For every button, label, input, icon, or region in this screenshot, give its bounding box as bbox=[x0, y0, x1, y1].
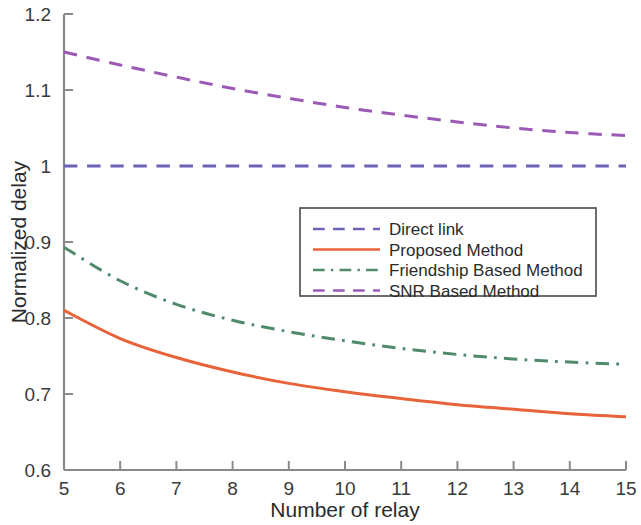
legend-label: Proposed Method bbox=[389, 241, 523, 260]
x-tick-label: 13 bbox=[503, 478, 524, 499]
x-tick-label: 5 bbox=[59, 478, 70, 499]
x-axis-title: Number of relay bbox=[270, 498, 420, 521]
x-tick-label: 14 bbox=[559, 478, 581, 499]
legend-label: SNR Based Method bbox=[389, 282, 539, 301]
x-tick-label: 10 bbox=[334, 478, 355, 499]
y-tick-label: 1.1 bbox=[25, 80, 51, 101]
y-tick-label: 1 bbox=[40, 156, 51, 177]
x-tick-label: 15 bbox=[615, 478, 636, 499]
legend-label: Friendship Based Method bbox=[389, 261, 583, 280]
chart-figure: 0.60.70.80.911.11.2 56789101112131415 Nu… bbox=[0, 0, 641, 525]
x-tick-label: 7 bbox=[171, 478, 182, 499]
y-tick-label: 0.6 bbox=[25, 460, 51, 481]
x-tick-label: 11 bbox=[391, 478, 411, 499]
legend-label: Direct link bbox=[389, 220, 464, 239]
chart-svg: 0.60.70.80.911.11.2 56789101112131415 Nu… bbox=[0, 0, 641, 525]
x-tick-label: 8 bbox=[227, 478, 238, 499]
x-tick-label: 9 bbox=[284, 478, 295, 499]
y-axis-title: Normalized delay bbox=[7, 160, 30, 323]
y-tick-label: 0.7 bbox=[25, 384, 51, 405]
y-tick-label: 1.2 bbox=[25, 4, 51, 25]
x-tick-label: 6 bbox=[115, 478, 126, 499]
chart-legend: Direct linkProposed MethodFriendship Bas… bbox=[300, 208, 596, 301]
x-tick-label: 12 bbox=[447, 478, 468, 499]
